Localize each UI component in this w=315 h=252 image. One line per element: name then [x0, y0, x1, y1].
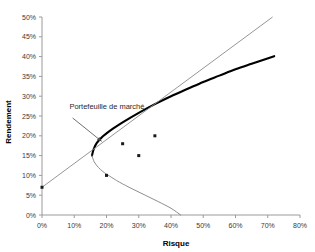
y-tick-label: 0%: [26, 212, 36, 219]
y-tick-label: 35%: [22, 73, 36, 80]
y-tick-label: 15%: [22, 152, 36, 159]
scatter-point: [41, 186, 44, 189]
x-tick-label: 50%: [196, 222, 210, 229]
chart-container: 0%5%10%15%20%25%30%35%40%45%50% 0%10%20%…: [0, 0, 315, 252]
efficient-frontier-chart: 0%5%10%15%20%25%30%35%40%45%50% 0%10%20%…: [0, 0, 315, 252]
x-tick-label: 30%: [132, 222, 146, 229]
scatter-point: [137, 154, 140, 157]
chart-background: [0, 0, 315, 252]
scatter-point: [153, 134, 156, 137]
y-tick-label: 5%: [26, 192, 36, 199]
market-portfolio-label: Portefeuille de marché: [69, 102, 144, 111]
y-tick-label: 30%: [22, 93, 36, 100]
y-axis-title: Rendement: [4, 100, 13, 144]
scatter-point: [121, 142, 124, 145]
y-tick-label: 25%: [22, 113, 36, 120]
x-tick-label: 60%: [228, 222, 242, 229]
x-tick-label: 40%: [164, 222, 178, 229]
x-tick-label: 10%: [67, 222, 81, 229]
x-tick-label: 20%: [99, 222, 113, 229]
x-tick-label: 0%: [37, 222, 47, 229]
y-tick-label: 40%: [22, 53, 36, 60]
y-tick-label: 10%: [22, 172, 36, 179]
x-tick-label: 70%: [261, 222, 275, 229]
y-tick-label: 20%: [22, 132, 36, 139]
x-axis-title: Risque: [163, 239, 190, 248]
y-tick-label: 45%: [22, 33, 36, 40]
y-tick-label: 50%: [22, 14, 36, 21]
scatter-point: [105, 174, 108, 177]
x-tick-label: 80%: [293, 222, 307, 229]
